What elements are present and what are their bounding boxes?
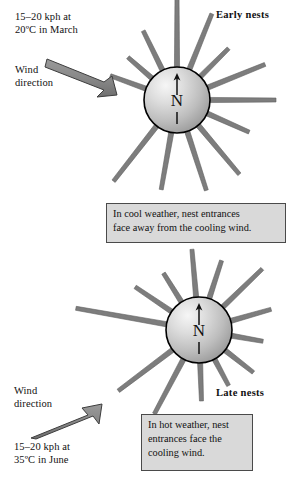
nest-entrance-ray xyxy=(190,249,199,301)
wind-speed-temperature-early: 15–20 kph at 20ºC in March xyxy=(15,11,78,37)
wind-arrow-early xyxy=(45,59,117,97)
caption-text-late: In hot weather, nest entrances face the … xyxy=(148,418,252,460)
panel-late-nests: N xyxy=(31,249,272,439)
compass-letter-north-early: N xyxy=(171,91,183,110)
nest-entrance-ray xyxy=(76,306,171,327)
panel-title-late-nests: Late nests xyxy=(216,387,264,400)
nest-entrance-ray xyxy=(206,97,276,102)
nest-entrance-ray xyxy=(134,285,176,316)
panel-title-early-nests: Early nests xyxy=(216,9,269,22)
wind-arrow-southeast-shape xyxy=(45,59,117,97)
nest-sphere-early: N xyxy=(144,67,210,133)
nest-entrance-ray xyxy=(197,359,203,401)
nest-entrance-ray xyxy=(202,109,250,134)
nest-entrance-ray xyxy=(226,307,271,324)
nest-entrance-ray xyxy=(174,0,179,71)
nest-entrance-ray xyxy=(141,30,166,75)
wind-direction-label-early: Wind direction xyxy=(15,64,53,90)
nest-entrance-ray xyxy=(205,260,223,303)
wind-speed-temperature-late: 15–20 kph at 35ºC in June xyxy=(14,441,70,467)
panel-early-nests: N xyxy=(45,0,276,191)
compass-letter-north-late: N xyxy=(193,321,205,340)
wind-direction-label-late: Wind direction xyxy=(14,385,52,411)
nest-entrance-ray xyxy=(218,267,264,311)
nest-orientation-figure: N N 15–20 kph at 20ºC in March Wind dire… xyxy=(0,0,292,491)
nest-sphere-late: N xyxy=(166,297,232,363)
nest-entrance-ray xyxy=(159,128,174,190)
nest-entrance-ray xyxy=(112,121,161,182)
caption-text-early: In cool weather, nest entrances face awa… xyxy=(113,207,283,235)
